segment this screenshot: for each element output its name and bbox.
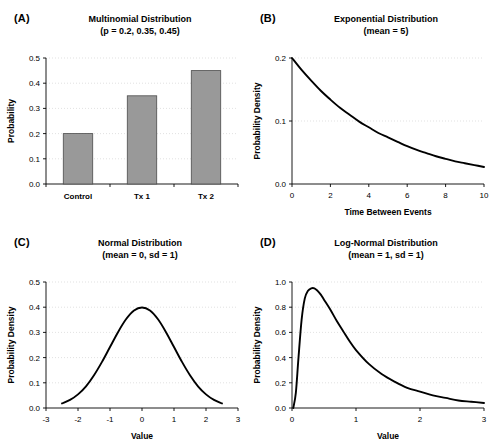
panel-d-lognormal: (D) Log-Normal Distribution (mean = 1, s… [246, 224, 492, 448]
bar [191, 71, 220, 184]
panel-b-exponential: (B) Exponential Distribution (mean = 5) … [246, 0, 492, 224]
y-tick-label: 0.5 [29, 278, 41, 287]
y-tick-label: 0.3 [29, 104, 41, 113]
category-label: Tx 2 [198, 192, 215, 201]
y-tick-label: 0.4 [29, 303, 41, 312]
x-tick-label: 2 [328, 191, 333, 200]
panel-d-plot: 0.00.20.40.60.81.0Probability Density012… [246, 224, 492, 448]
panel-a-multinomial: (A) Multinomial Distribution (p = 0.2, 0… [0, 0, 246, 224]
x-tick-label: -2 [74, 415, 82, 424]
y-tick-label: 0.4 [275, 354, 287, 363]
panel-c-normal: (C) Normal Distribution (mean = 0, sd = … [0, 224, 246, 448]
x-axis-title: Time Between Events [344, 207, 432, 217]
y-tick-label: 0.6 [275, 328, 287, 337]
y-axis-title: Probability Density [252, 306, 262, 383]
y-tick-label: 0.1 [29, 155, 41, 164]
distribution-curve [292, 58, 484, 167]
x-tick-label: 10 [480, 191, 489, 200]
y-tick-label: 0.5 [29, 54, 41, 63]
bar [127, 96, 156, 184]
x-tick-label: 8 [443, 191, 448, 200]
y-tick-label: 0.0 [275, 180, 287, 189]
x-tick-label: 2 [418, 415, 423, 424]
y-axis-title: Probability Density [6, 306, 16, 383]
x-axis-title: Value [131, 431, 153, 441]
bar [63, 134, 92, 184]
y-axis-title: Probability [6, 99, 16, 143]
x-tick-label: 0 [290, 415, 295, 424]
y-tick-label: 0.4 [29, 79, 41, 88]
category-label: Control [64, 192, 92, 201]
y-tick-label: 0.2 [275, 54, 287, 63]
y-tick-label: 0.2 [29, 130, 41, 139]
x-tick-label: -3 [42, 415, 50, 424]
y-tick-label: 1.0 [275, 278, 287, 287]
x-tick-label: 6 [405, 191, 410, 200]
y-tick-label: 0.0 [29, 404, 41, 413]
x-tick-label: 1 [172, 415, 177, 424]
x-tick-label: 0 [290, 191, 295, 200]
x-axis-title: Value [377, 431, 399, 441]
x-tick-label: 4 [367, 191, 372, 200]
y-tick-label: 0.3 [29, 328, 41, 337]
y-axis-title: Probability Density [252, 82, 262, 159]
y-tick-label: 0.0 [275, 404, 287, 413]
y-tick-label: 0.0 [29, 180, 41, 189]
y-tick-label: 0.2 [29, 354, 41, 363]
y-tick-label: 0.2 [275, 379, 287, 388]
distribution-curve [293, 288, 484, 408]
category-label: Tx 1 [134, 192, 151, 201]
distribution-curve [62, 307, 222, 403]
x-tick-label: -1 [106, 415, 114, 424]
y-tick-label: 0.1 [29, 379, 41, 388]
panel-c-plot: 0.00.10.20.30.40.5Probability Density-3-… [0, 224, 246, 448]
x-tick-label: 1 [354, 415, 359, 424]
x-tick-label: 2 [204, 415, 209, 424]
panel-a-plot: 0.00.10.20.30.40.5ProbabilityControlTx 1… [0, 0, 246, 224]
x-tick-label: 0 [140, 415, 145, 424]
x-tick-label: 3 [482, 415, 487, 424]
y-tick-label: 0.1 [275, 117, 287, 126]
x-tick-label: 3 [236, 415, 241, 424]
figure-container: (A) Multinomial Distribution (p = 0.2, 0… [0, 0, 492, 448]
panel-b-plot: 0.00.10.2Probability Density0246810Time … [246, 0, 492, 224]
y-tick-label: 0.8 [275, 303, 287, 312]
